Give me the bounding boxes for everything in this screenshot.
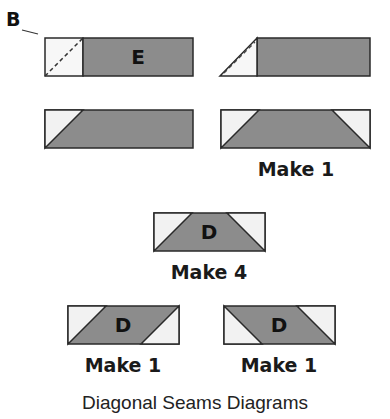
caption-step2-right: Make 1 (258, 158, 335, 180)
caption-d-left: Make 1 (85, 354, 162, 376)
step2-left-unit (45, 110, 193, 148)
diagram-canvas (0, 0, 390, 419)
b-square (45, 38, 83, 76)
caption-d-right: Make 1 (241, 354, 318, 376)
label-d-left: D (115, 313, 132, 337)
caption-d-center: Make 4 (171, 261, 248, 283)
step1-right-unit (220, 38, 370, 76)
label-e: E (131, 45, 145, 69)
step2-right-unit (221, 110, 370, 148)
label-d-right: D (271, 313, 288, 337)
label-d-center: D (201, 220, 218, 244)
b-leader-line (22, 30, 38, 34)
figure-title: Diagonal Seams Diagrams (82, 392, 308, 414)
label-b: B (6, 8, 20, 30)
